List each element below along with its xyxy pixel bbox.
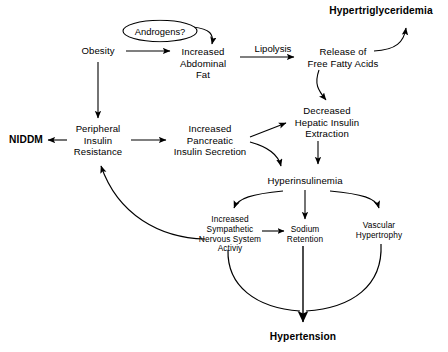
node-androgens-label: Androgens? bbox=[135, 26, 186, 37]
node-sodium-retention[interactable]: Sodium Retention bbox=[287, 225, 323, 245]
node-peripheral-insulin-resistance[interactable]: Peripheral Insulin Resistance bbox=[74, 123, 122, 158]
edge-hyperinsulinemia-to-sympathetic-activity bbox=[234, 191, 283, 208]
node-hypertriglyceridemia[interactable]: Hypertriglyceridemia bbox=[329, 5, 432, 17]
edge-free-fatty-acids-to-hepatic-extraction bbox=[317, 70, 326, 100]
edge-sympathetic-activity-to-peripheral-insulin-resistance-feedback bbox=[101, 166, 205, 239]
edge-free-fatty-acids-to-hypertriglyceridemia bbox=[374, 28, 406, 51]
node-androgens[interactable]: Androgens? bbox=[122, 20, 198, 43]
edge-label-lipolysis: Lipolysis bbox=[255, 43, 292, 54]
node-vascular-hypertrophy[interactable]: Vascular Hypertrophy bbox=[356, 221, 402, 241]
node-increased-abdominal-fat[interactable]: Increased Abdominal Fat bbox=[180, 46, 226, 81]
node-obesity[interactable]: Obesity bbox=[81, 45, 114, 57]
edge-pancreatic-secretion-to-hyperinsulinemia bbox=[250, 142, 281, 166]
node-increased-sympathetic-nervous-system-activity[interactable]: Increased Sympathetic Nervous System Act… bbox=[199, 215, 261, 254]
node-increased-pancreatic-insulin-secretion[interactable]: Increased Pancreatic Insulin Secretion bbox=[174, 123, 247, 158]
node-niddm[interactable]: NIDDM bbox=[9, 134, 43, 146]
node-decreased-hepatic-insulin-extraction[interactable]: Decreased Hepatic Insulin Extraction bbox=[295, 105, 359, 140]
edge-vascular-hypertrophy-to-hypertension bbox=[306, 244, 381, 311]
node-hypertension[interactable]: Hypertension bbox=[270, 331, 336, 343]
node-release-of-free-fatty-acids[interactable]: Release of Free Fatty Acids bbox=[308, 46, 379, 69]
pathway-diagram: Androgens? Obesity Increased Abdominal F… bbox=[0, 0, 448, 352]
node-hyperinsulinemia[interactable]: Hyperinsulinemia bbox=[267, 175, 342, 187]
edge-hyperinsulinemia-to-vascular-hypertrophy bbox=[330, 191, 379, 208]
edge-sympathetic-activity-to-hypertension bbox=[228, 250, 300, 311]
edge-pancreatic-secretion-to-hepatic-extraction bbox=[250, 123, 286, 137]
